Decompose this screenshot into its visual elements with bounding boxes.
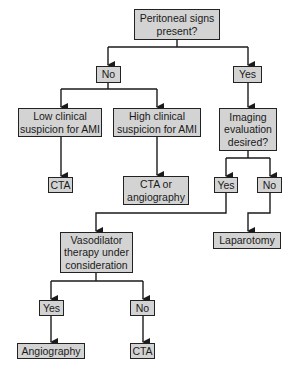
node-laparotomy: Laparotomy — [213, 232, 281, 249]
node-cta-low: CTA — [48, 177, 73, 193]
node-yes-peritoneal: Yes — [233, 66, 262, 83]
node-no-peritoneal: No — [96, 66, 121, 83]
node-high-suspicion: High clinical suspicion for AMI — [113, 108, 201, 137]
node-cta-final: CTA — [130, 343, 155, 359]
node-peritoneal-signs: Peritoneal signs present? — [134, 9, 220, 40]
node-cta-or-angiography: CTA or angiography — [123, 176, 189, 205]
node-imaging-evaluation: Imaging evaluation desired? — [219, 108, 277, 151]
node-vasodilator-therapy: Vasodilator therapy under consideration — [60, 232, 133, 273]
node-no-vasodilator: No — [130, 300, 155, 316]
node-yes-vasodilator: Yes — [39, 300, 64, 316]
node-no-imaging: No — [257, 177, 282, 193]
node-yes-imaging: Yes — [214, 177, 238, 193]
node-low-suspicion: Low clinical suspicion for AMI — [18, 108, 102, 137]
node-angiography: Angiography — [17, 343, 85, 359]
